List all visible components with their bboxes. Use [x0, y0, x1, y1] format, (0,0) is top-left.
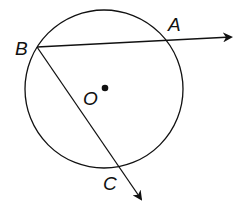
center-point-o	[102, 85, 109, 92]
geometry-diagram: B A O C	[0, 0, 236, 202]
ray-ba	[37, 37, 231, 47]
label-o: O	[83, 88, 98, 109]
label-a: A	[167, 14, 181, 35]
ray-bc	[37, 47, 141, 199]
label-b: B	[15, 38, 28, 59]
label-c: C	[103, 173, 117, 194]
